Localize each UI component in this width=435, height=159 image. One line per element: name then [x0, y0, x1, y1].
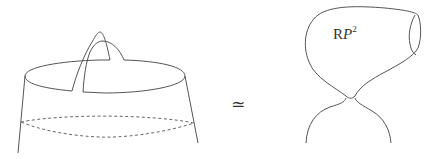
lower-sheet-left: [306, 98, 346, 143]
handle-outer-arc: [83, 41, 124, 92]
rp2-crosscap-disc: [409, 15, 416, 55]
rp2-label-base: R: [333, 26, 343, 42]
left-wall-line: [18, 76, 25, 153]
diagram-canvas: [0, 0, 435, 159]
homotopy-equivalence-symbol: ≃: [231, 94, 245, 115]
rp2-label: RP2: [333, 26, 357, 43]
pinch-point: [346, 96, 355, 98]
left-cylinder-figure: [18, 32, 198, 153]
top-rim-ellipse-right: [83, 60, 185, 93]
rp2-label-superscript: 2: [352, 24, 357, 34]
dashed-cross-section: [21, 116, 194, 137]
right-wall-line: [185, 76, 198, 143]
right-rp2-figure: [305, 7, 420, 143]
rp2-label-italic: P: [343, 26, 352, 42]
lower-sheet-right: [355, 98, 391, 143]
top-rim-ellipse: [25, 60, 110, 91]
rp2-bulb-outline: [305, 7, 420, 96]
